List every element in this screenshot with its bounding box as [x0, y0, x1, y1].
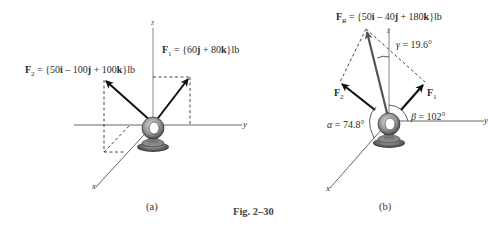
- alpha-arc: [369, 107, 376, 138]
- f2-equation-a: F2 = {50i – 100j + 100k}lb: [25, 65, 135, 78]
- gamma-label: γ = 19.6°: [396, 40, 432, 50]
- z-axis-label-b: z: [387, 27, 390, 35]
- f2-label-b: F2: [334, 88, 344, 101]
- resultant-equation: FR = {50i – 40j + 180k}lb: [336, 12, 442, 25]
- panel-a-label: (a): [146, 201, 158, 212]
- eyebolt-b-icon: [373, 113, 405, 148]
- z-axis-label-a: z: [151, 19, 154, 27]
- f1-equation-a: F1 = {60j + 80k}lb: [162, 45, 239, 58]
- alpha-label: α = 74.8°: [327, 120, 364, 130]
- y-axis-label-a: y: [243, 120, 247, 129]
- figure-caption: Fig. 2–30: [233, 206, 274, 217]
- f1-arrow-b: [401, 85, 423, 110]
- panel-b: [330, 28, 484, 188]
- figure-2-30: z y x F1 = {60j + 80k}lb F2 = {50i – 100…: [0, 0, 488, 230]
- parallelogram: [340, 29, 425, 82]
- f1-label-b: F1: [427, 88, 437, 101]
- gamma-arc: [377, 56, 389, 58]
- beta-label: β = 102°: [411, 112, 446, 122]
- f2-arrow-b: [342, 84, 375, 110]
- f2-arrow-a: [106, 81, 152, 122]
- panel-b-label: (b): [379, 201, 391, 212]
- y-axis-label-b: y: [484, 116, 488, 125]
- f1-arrow-a: [155, 79, 188, 122]
- eyebolt-a-icon: [137, 117, 169, 152]
- x-axis-label-b: x: [326, 184, 330, 193]
- x-axis-label-a: x: [92, 182, 96, 191]
